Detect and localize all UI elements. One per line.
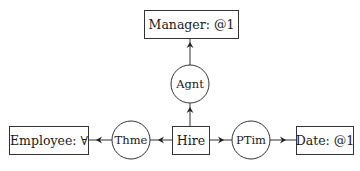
conceptual-graph: Manager: @1 Hire Employee: ∀ Date: @1 Ag… (0, 0, 360, 171)
relation-agnt-label: Agnt (175, 77, 204, 91)
concept-employee-label: Employee: ∀ (10, 133, 89, 148)
concept-date: Date: @1 (296, 127, 355, 155)
relation-thme: Thme (112, 121, 150, 159)
concept-date-label: Date: @1 (296, 133, 355, 148)
concept-hire-label: Hire (177, 133, 205, 148)
relation-ptim: PTim (232, 121, 270, 159)
relation-ptim-label: PTim (236, 133, 266, 147)
concept-hire: Hire (173, 127, 210, 155)
relation-agnt: Agnt (171, 65, 209, 103)
concept-manager: Manager: @1 (145, 11, 239, 39)
concept-employee: Employee: ∀ (10, 127, 89, 155)
concept-manager-label: Manager: @1 (149, 17, 235, 32)
relation-thme-label: Thme (115, 133, 148, 147)
